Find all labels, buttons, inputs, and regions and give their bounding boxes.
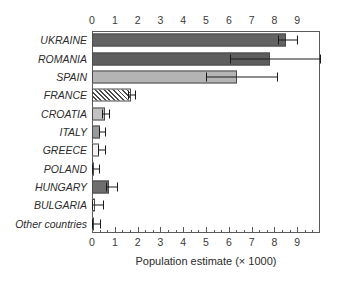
x-tick-label-top: 6 [226, 14, 232, 26]
error-bar-cap-low [106, 183, 107, 192]
category-label: BULGARIA [34, 199, 87, 211]
bar [92, 34, 286, 47]
bar-row: POLAND [0, 160, 338, 178]
error-bar-cap-low [92, 219, 93, 228]
error-bar-cap-high [109, 109, 110, 118]
error-bar-line [106, 187, 117, 188]
error-bar-cap-low [128, 91, 129, 100]
x-tick-label-top: 9 [294, 14, 300, 26]
category-label: HUNGARY [35, 181, 87, 193]
bar [92, 89, 131, 102]
error-bar-line [278, 40, 297, 41]
x-tick-label-bottom: 4 [180, 236, 186, 248]
bar-row: ITALY [0, 123, 338, 141]
x-tick-label-bottom: 7 [249, 236, 255, 248]
x-tick-label-top: 5 [203, 14, 209, 26]
bar-row: BULGARIA [0, 196, 338, 214]
error-bar-line [230, 58, 320, 59]
x-axis-top-tick-labels: 0123456789 [92, 14, 320, 28]
category-label: SPAIN [56, 71, 87, 83]
error-bar-cap-high [100, 219, 101, 228]
x-tick-label-top: 0 [89, 14, 95, 26]
error-bar-line [92, 168, 99, 169]
error-bar-cap-high [320, 54, 321, 63]
x-tick-label-top: 3 [157, 14, 163, 26]
x-tick-label-top: 4 [180, 14, 186, 26]
error-bar-line [128, 95, 135, 96]
error-bar-cap-high [99, 164, 100, 173]
bar-row: GREECE [0, 141, 338, 159]
category-label: CROATIA [41, 108, 87, 120]
x-tick-label-bottom: 0 [89, 236, 95, 248]
error-bar-cap-high [277, 72, 278, 81]
error-bar-line [98, 150, 105, 151]
bar-row: FRANCE [0, 86, 338, 104]
category-label: ROMANIA [38, 53, 87, 65]
x-tick-label-bottom: 6 [226, 236, 232, 248]
error-bar-cap-high [105, 146, 106, 155]
error-bar-cap-low [102, 109, 103, 118]
category-label: POLAND [44, 163, 87, 175]
error-bar-cap-low [230, 54, 231, 63]
error-bar-cap-high [103, 201, 104, 210]
bar-row: Other countries [0, 215, 338, 233]
bar-row: ROMANIA [0, 49, 338, 67]
error-bar-cap-low [206, 72, 207, 81]
error-bar-line [102, 113, 109, 114]
x-tick-label-top: 2 [135, 14, 141, 26]
bar-row: UKRAINE [0, 31, 338, 49]
x-axis-title: Population estimate (× 1000) [92, 255, 320, 267]
bar-row: HUNGARY [0, 178, 338, 196]
x-tick-label-top: 8 [271, 14, 277, 26]
category-label: GREECE [43, 144, 87, 156]
x-tick-label-bottom: 2 [135, 236, 141, 248]
x-tick-label-bottom: 5 [203, 236, 209, 248]
category-label: Other countries [15, 218, 87, 230]
x-tick-label-top: 7 [249, 14, 255, 26]
x-axis-bottom-tick-labels: 0123456789 [92, 236, 320, 250]
bar-chart: 0123456789 0123456789 UKRAINEROMANIASPAI… [0, 0, 338, 285]
x-tick-label-bottom: 8 [271, 236, 277, 248]
x-tick-label-bottom: 9 [294, 236, 300, 248]
bar-rows: UKRAINEROMANIASPAINFRANCECROATIAITALYGRE… [0, 31, 338, 233]
x-tick-label-bottom: 1 [112, 236, 118, 248]
error-bar-cap-low [99, 127, 100, 136]
bar-row: SPAIN [0, 68, 338, 86]
x-tick-label-top: 1 [112, 14, 118, 26]
error-bar-cap-low [278, 36, 279, 45]
error-bar-cap-high [297, 36, 298, 45]
error-bar-cap-high [135, 91, 136, 100]
error-bar-cap-low [92, 201, 93, 210]
category-label: FRANCE [44, 89, 87, 101]
bar-row: CROATIA [0, 104, 338, 122]
error-bar-cap-high [105, 127, 106, 136]
error-bar-cap-low [92, 164, 93, 173]
error-bar-line [92, 223, 100, 224]
category-label: ITALY [60, 126, 87, 138]
error-bar-line [92, 205, 103, 206]
error-bar-cap-high [117, 183, 118, 192]
x-tick-label-bottom: 3 [157, 236, 163, 248]
category-label: UKRAINE [40, 34, 87, 46]
error-bar-cap-low [98, 146, 99, 155]
error-bar-line [206, 76, 277, 77]
